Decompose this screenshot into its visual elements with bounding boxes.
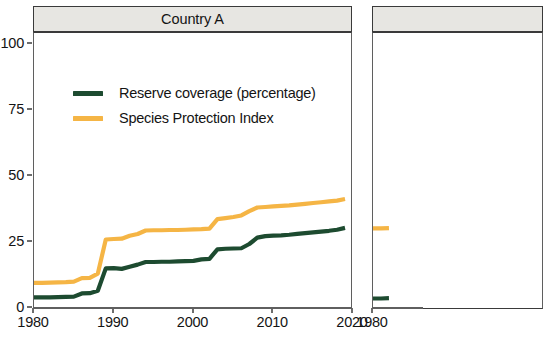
- panel-strip-clipped: [372, 6, 543, 32]
- y-tick-mark: [27, 240, 32, 242]
- x-tick-label: 2000: [163, 315, 223, 330]
- panel-title: Country A: [161, 12, 224, 27]
- y-tick-mark: [27, 174, 32, 176]
- x-tick-label: 1980: [3, 315, 63, 330]
- y-tick-label: 0: [0, 300, 24, 315]
- x-tick-label: 1990: [83, 315, 143, 330]
- line-series-reserve-coverage: [34, 228, 345, 298]
- line-series-species-protection-index: [34, 199, 345, 283]
- y-tick-label: 25: [0, 234, 24, 249]
- panel-strip-country-a: Country A: [33, 6, 352, 32]
- legend-label-reserve-coverage: Reserve coverage (percentage): [119, 86, 316, 101]
- plot-area-country-a: [33, 32, 352, 309]
- legend-label-species-protection-index: Species Protection Index: [119, 111, 273, 126]
- legend-swatch-species-protection-index: [73, 116, 103, 121]
- y-tick-label: 100: [0, 36, 24, 51]
- legend-item-species-protection-index: Species Protection Index: [73, 106, 316, 131]
- x-tick-label: 1980: [342, 315, 402, 330]
- plot-area-clipped: [372, 32, 543, 309]
- y-tick-mark: [27, 42, 32, 44]
- legend-item-reserve-coverage: Reserve coverage (percentage): [73, 81, 316, 106]
- y-tick-label: 50: [0, 168, 24, 183]
- series-lines-country-a: [34, 33, 352, 309]
- legend: Reserve coverage (percentage) Species Pr…: [73, 81, 316, 131]
- series-lines-clipped: [373, 33, 543, 309]
- x-axis-line: [33, 307, 352, 309]
- y-tick-mark: [27, 108, 32, 110]
- legend-swatch-reserve-coverage: [73, 91, 103, 96]
- y-tick-label: 75: [0, 102, 24, 117]
- x-tick-label: 2010: [242, 315, 302, 330]
- x-axis-line: [372, 307, 423, 309]
